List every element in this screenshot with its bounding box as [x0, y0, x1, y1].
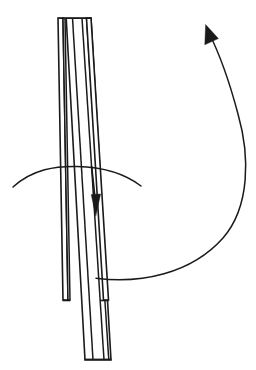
technical-figure — [0, 0, 256, 370]
figure-background — [0, 0, 256, 370]
figure-canvas — [0, 0, 256, 370]
